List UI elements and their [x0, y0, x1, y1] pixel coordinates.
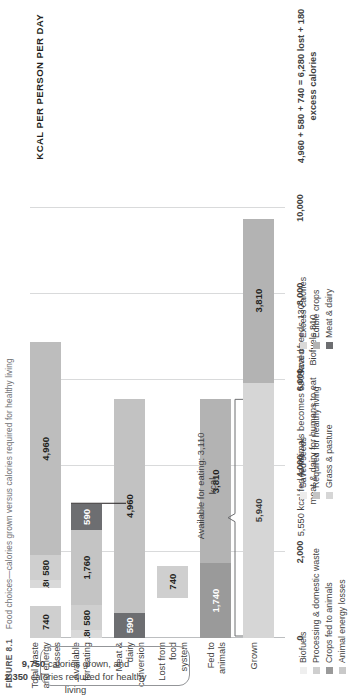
callout-line1-value: 9,750: [22, 658, 45, 669]
callout-line1-text: calories grown, and: [45, 658, 129, 669]
bar-segment: 180: [30, 580, 61, 588]
bar-segment-label: 740: [167, 574, 178, 590]
category-label: Grown: [249, 642, 260, 692]
category-label: Fed to animals: [206, 642, 228, 692]
legend-swatch: [300, 667, 307, 674]
legend-swatch: [326, 342, 333, 349]
legend-item[interactable]: Processing & domestic waste: [311, 499, 321, 674]
legend-column: Excess caloriesEdible cropsMeat & dairy: [298, 229, 347, 349]
bar-segment: 590: [114, 613, 145, 638]
bar-available-for-eating: 1805801,760590: [71, 208, 102, 638]
bar-segment-label: 590: [124, 617, 135, 633]
bar-lost-from-food-system: 740: [157, 208, 188, 638]
legend-column: BiofuelsProcessing & domestic wasteCrops…: [298, 499, 347, 674]
plot-area: 02,0004,0006,0008,00010,000 5,9403,8101,…: [30, 208, 285, 638]
bar-segment: 590: [71, 504, 102, 529]
bar-grown: 5,9403,810: [243, 208, 274, 638]
legend-label: Meat & dairy: [324, 289, 334, 338]
legend-swatch: [313, 667, 320, 674]
legend-swatch: [313, 342, 320, 349]
bar-segment-label: 590: [81, 509, 92, 525]
legend-swatch: [300, 342, 307, 349]
legend-label: Grass & pasture: [324, 424, 334, 488]
bar-segment: 1,760: [71, 530, 102, 606]
legend-item[interactable]: Crops fed to animals: [324, 499, 334, 674]
bar-total-waste-and-energy-losses: 7401805804,960: [30, 208, 61, 638]
legend-label: Excess calories: [298, 277, 308, 338]
legend-item[interactable]: Meat & dairy: [324, 229, 334, 349]
legend-item[interactable]: Required for healthy living: [311, 349, 321, 499]
figure-caption-text: Food choices—calories grown versus calor…: [4, 358, 14, 629]
annotation-available-for-eating: Available for eating: 3,110 kcal: [196, 426, 219, 546]
callout-text: 9,750 calories grown, and 2,350 calories…: [1, 657, 151, 696]
bar-segment: 580: [30, 555, 61, 580]
legend-label: Biofuels: [298, 632, 308, 663]
bar-segment-label: 1,740: [210, 589, 221, 613]
bar-segment-label: 4,960: [124, 494, 135, 518]
bar-segment: 4,960: [30, 342, 61, 555]
bar-segment: 3,810: [243, 219, 274, 383]
bar-segment-label: 740: [40, 614, 51, 630]
bar-segment-label: 580: [40, 560, 51, 576]
bar-segment: 1,740: [200, 563, 231, 638]
legend-label: Saved seeds: [298, 437, 308, 488]
figure-caption: FIGURE 8.1 Food choices—calories grown v…: [4, 28, 14, 688]
legend-item[interactable]: Saved seeds: [298, 349, 308, 499]
callout-line2-value: 2,350: [5, 671, 28, 682]
bar-segment-label: 180: [40, 580, 51, 588]
legend: BiofuelsProcessing & domestic wasteCrops…: [298, 14, 347, 674]
bar-segment: 740: [157, 566, 188, 598]
bar-segment-label: 580: [81, 610, 92, 626]
bar-segment-label: 5,940: [253, 498, 264, 522]
figure-root: FIGURE 8.1 Food choices—calories grown v…: [0, 0, 351, 696]
bar-segment: 4,960: [114, 399, 145, 612]
legend-label: Edible crops: [311, 290, 321, 338]
legend-swatch: [300, 492, 307, 499]
legend-label: Required for healthy living: [311, 386, 321, 488]
legend-swatch: [313, 492, 320, 499]
callout-line2-text: calories required for healthy living: [28, 671, 146, 695]
legend-item[interactable]: Edible crops: [311, 229, 321, 349]
bar-meat-dairy-conversion: 5904,960: [114, 208, 145, 638]
bar-segment-label: 180: [81, 630, 92, 638]
legend-item[interactable]: Animal energy losses: [337, 499, 347, 674]
legend-label: Processing & domestic waste: [311, 548, 321, 663]
bar-segment: 5,940: [243, 383, 274, 638]
legend-label: Animal energy losses: [337, 579, 347, 663]
legend-item[interactable]: Biofuels: [298, 499, 308, 674]
bar-segment: 740: [30, 606, 61, 638]
legend-swatch: [339, 667, 346, 674]
bar-segment: 180: [71, 630, 102, 638]
legend-swatch: [326, 667, 333, 674]
bar-fed-to-animals: 1,7403,810: [200, 208, 231, 638]
legend-swatch: [326, 492, 333, 499]
axis-title: KCAL PER PERSON PER DAY: [34, 14, 45, 160]
legend-item[interactable]: Excess calories: [298, 229, 308, 349]
legend-column: Saved seedsRequired for healthy livingGr…: [298, 349, 347, 499]
legend-label: Crops fed to animals: [324, 582, 334, 663]
bar-segment: 580: [71, 605, 102, 630]
bar-segment-label: 3,810: [253, 289, 264, 313]
bar-segment-label: 1,760: [81, 556, 92, 580]
bar-segment-label: 4,960: [40, 437, 51, 461]
legend-item[interactable]: Grass & pasture: [324, 349, 334, 499]
